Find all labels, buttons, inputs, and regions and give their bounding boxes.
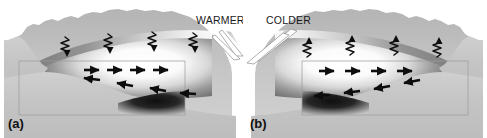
panel-a-lower-arrow-4 — [180, 93, 196, 94]
figure-root: WARMER (a) — [0, 0, 487, 138]
panel-b: COLDER (b) — [247, 9, 483, 138]
panel-a-label: (a) — [8, 116, 24, 131]
panel-b-colder-label: COLDER — [266, 14, 311, 26]
panel-b-lower-arrow-4 — [314, 95, 330, 96]
panel-b-label: (b) — [250, 116, 267, 131]
panel-a-warmer-label: WARMER — [196, 14, 245, 26]
valley-circulation-diagram: WARMER (a) — [0, 0, 487, 138]
